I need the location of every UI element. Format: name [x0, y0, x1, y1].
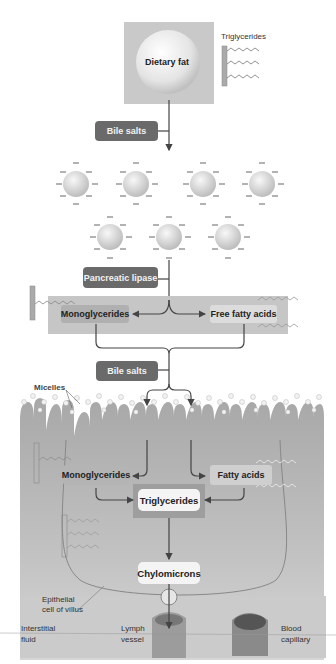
pancreatic-lipase-box: Pancreatic lipase	[83, 267, 158, 288]
chylomicrons-box: Chylomicrons	[138, 562, 200, 584]
triglycerides-box: Triglycerides	[138, 489, 200, 511]
monoglycerides-box-1: Monoglycerides	[61, 305, 129, 323]
dietary-fat-label: Dietary fat	[145, 57, 189, 67]
monoglycerides-box-2: Monoglycerides	[63, 465, 129, 485]
epithelial-cell-label-1: Epithelial	[42, 595, 74, 605]
epithelial-cell-label-2: cell of villus	[42, 605, 83, 615]
blood-capillary-label-2: capillary	[281, 635, 310, 645]
fatty-acids-box: Fatty acids	[210, 465, 272, 485]
emulsion-droplets	[56, 163, 284, 258]
bile-salts-box-1: Bile salts	[95, 121, 158, 141]
micelles-label: Micelles	[34, 383, 65, 393]
interstitial-fluid-label-2: fluid	[21, 635, 36, 645]
triglyceride-icon	[222, 46, 259, 86]
lymph-vessel-label-2: vessel	[121, 635, 144, 645]
free-fatty-acids-box: Free fatty acids	[210, 305, 277, 323]
triglycerides-legend-label: Triglycerides	[221, 32, 266, 42]
interstitial-fluid-label-1: Interstitial	[21, 624, 55, 634]
bile-salts-box-2: Bile salts	[96, 361, 158, 381]
blood-capillary-label-1: Blood	[281, 624, 301, 634]
lymph-vessel-label-1: Lymph	[121, 624, 145, 634]
